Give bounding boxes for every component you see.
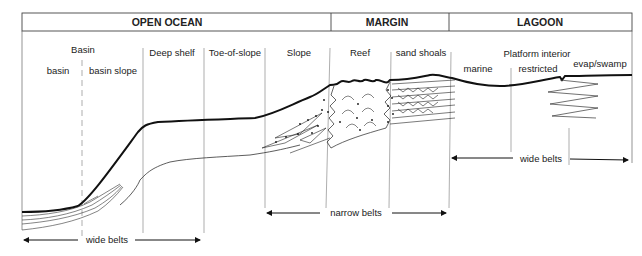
boundary-reef [326, 48, 330, 208]
zone-lagoon: LAGOON [517, 16, 563, 28]
belt-label-narrow: narrow belts [330, 207, 382, 218]
label-restricted: restricted [518, 63, 557, 74]
wide-belts-right-arrow-r [570, 159, 628, 160]
label-toe-of-slope: Toe-of-slope [209, 47, 261, 58]
label-basin-slope: basin slope [89, 65, 137, 76]
label-basin-group: Basin [71, 44, 95, 55]
slope-wedge [262, 125, 318, 148]
evaporite-zigzag [548, 80, 598, 118]
boundary-sand-shoals [389, 52, 391, 208]
reef-base [331, 128, 386, 148]
belt-label-wide-left: wide belts [85, 234, 128, 245]
reef-body [327, 82, 391, 148]
facies-boundaries [82, 48, 569, 240]
label-deep-shelf: Deep shelf [149, 47, 195, 58]
facies-labels: Basin basin basin slope Deep shelf Toe-o… [47, 44, 627, 76]
label-marine: marine [463, 63, 492, 74]
label-sand-shoals: sand shoals [396, 47, 447, 58]
zone-header: OPEN OCEAN MARGIN LAGOON [22, 13, 632, 31]
label-reef: Reef [350, 47, 370, 58]
zone-margin: MARGIN [366, 16, 409, 28]
slope-dots [275, 99, 329, 143]
subsurface-line [120, 145, 300, 205]
label-platform-interior: Platform interior [503, 48, 570, 59]
label-basin: basin [47, 65, 70, 76]
boundary-lagoon [449, 52, 451, 208]
belt-label-wide-right: wide belts [519, 153, 562, 164]
slope-wedge [290, 138, 330, 153]
slope-wedges [262, 113, 330, 153]
sand-shoals [390, 80, 455, 124]
zone-open-ocean: OPEN OCEAN [132, 16, 203, 28]
label-slope: Slope [287, 47, 311, 58]
label-evap-swamp: evap/swamp [573, 58, 626, 69]
depositional-profile [22, 75, 632, 212]
reef-frame-arcs [342, 94, 376, 128]
carbonate-platform-diagram: OPEN OCEAN MARGIN LAGOON Basin basin bas… [0, 0, 642, 256]
reef-dots [339, 103, 373, 131]
